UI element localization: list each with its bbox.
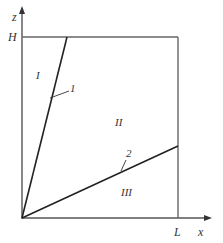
l-label: L	[173, 225, 181, 239]
x-axis-arrow-icon	[204, 215, 212, 221]
x-axis	[22, 215, 212, 221]
region-label-3: III	[120, 186, 133, 198]
z-axis-arrow-icon	[19, 6, 25, 14]
boundary-line-2	[22, 146, 178, 218]
line-label-2: 2	[126, 147, 132, 159]
domain-diagram: z H L x I II III 1 2	[0, 0, 223, 243]
z-axis-label: z	[11, 10, 17, 24]
z-axis	[19, 6, 25, 219]
region-label-2: II	[114, 116, 124, 128]
boundary-line-1	[22, 37, 67, 218]
region-label-1: I	[35, 69, 41, 81]
h-label: H	[7, 30, 18, 44]
leader-line-2	[121, 160, 126, 171]
line-label-1: 1	[70, 82, 76, 94]
x-axis-label: x	[197, 225, 204, 239]
